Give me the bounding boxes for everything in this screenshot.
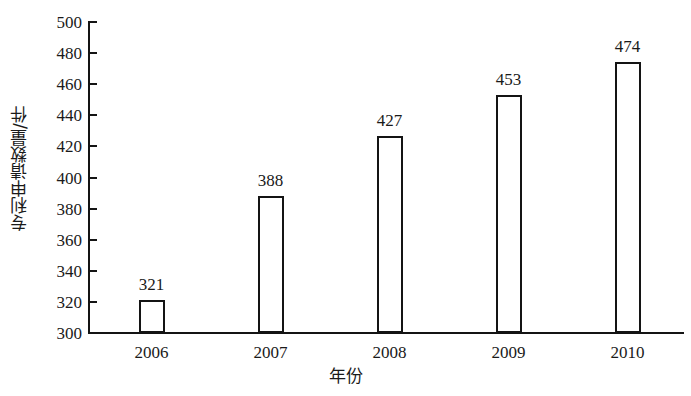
- x-tick-label: 2007: [254, 344, 288, 361]
- bar: [496, 95, 522, 333]
- y-tick-mark: [90, 301, 97, 303]
- bar-value-label: 427: [377, 112, 403, 129]
- y-tick-mark: [90, 177, 97, 179]
- y-tick-label: 360: [57, 231, 83, 248]
- y-tick-mark: [90, 270, 97, 272]
- y-tick-mark: [90, 145, 97, 147]
- x-tick-label: 2006: [135, 344, 169, 361]
- y-axis-tick-labels: 300 320 340 360 380 400 420 440 460 480 …: [30, 0, 82, 396]
- y-tick-mark: [90, 208, 97, 210]
- y-tick-mark: [90, 332, 97, 334]
- bar: [258, 196, 284, 333]
- bar: [139, 300, 165, 333]
- y-tick-label: 440: [57, 107, 83, 124]
- y-tick-label: 480: [57, 45, 83, 62]
- y-tick-mark: [90, 83, 97, 85]
- x-tick-label: 2008: [373, 344, 407, 361]
- y-tick-mark: [90, 114, 97, 116]
- bar: [615, 62, 641, 333]
- bar: [377, 136, 403, 333]
- y-axis-title: 专利申请数量/件: [6, 44, 32, 294]
- y-tick-label: 420: [57, 138, 83, 155]
- bar-value-label: 453: [496, 71, 522, 88]
- bar-value-label: 474: [615, 38, 641, 55]
- y-tick-label: 400: [57, 169, 83, 186]
- y-tick-mark: [90, 52, 97, 54]
- y-tick-label: 320: [57, 293, 83, 310]
- bar-value-label: 388: [258, 172, 284, 189]
- bar-chart: 专利申请数量/件 300 320 340 360 380 400 420 440…: [0, 0, 691, 396]
- x-tick-label: 2009: [492, 344, 526, 361]
- x-tick-label: 2010: [611, 344, 645, 361]
- y-tick-label: 380: [57, 200, 83, 217]
- y-tick-label: 340: [57, 262, 83, 279]
- x-axis-title: 年份: [0, 368, 691, 385]
- bar-value-label: 321: [139, 276, 165, 293]
- y-tick-label: 460: [57, 76, 83, 93]
- y-tick-label: 300: [57, 325, 83, 342]
- y-tick-mark: [90, 239, 97, 241]
- y-tick-label: 500: [57, 14, 83, 31]
- y-tick-mark: [90, 21, 97, 23]
